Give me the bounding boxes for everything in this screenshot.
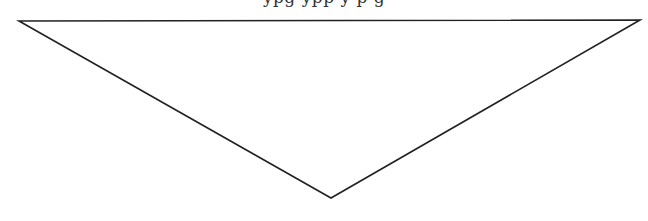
triangle-diagram [0, 0, 648, 221]
inverted-triangle-shape [19, 20, 640, 198]
